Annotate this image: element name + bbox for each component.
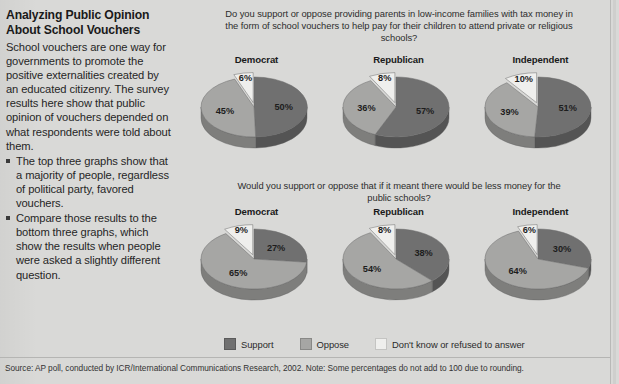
- pie-slice-label: 50%: [275, 102, 293, 112]
- pie-slice-label: 57%: [416, 106, 434, 116]
- pie-slice-label: 8%: [378, 73, 391, 83]
- list-item: The top three graphs show that a majorit…: [6, 154, 174, 210]
- legend-swatch-support: [224, 338, 236, 350]
- question-top: Do you support or oppose providing paren…: [218, 8, 580, 44]
- pie-slice-label: 45%: [216, 106, 234, 116]
- pie-svg: 30%64%6%: [474, 215, 606, 311]
- pie-slice-label: 30%: [553, 244, 571, 254]
- pie-graphic: 27%65%9%: [190, 215, 322, 315]
- pie-graphic: 50%45%6%: [190, 63, 322, 163]
- pie-slice-label: 10%: [515, 74, 533, 84]
- legend-label: Oppose: [317, 339, 350, 350]
- pie-chart-bottom-independent: Independent 30%64%6%: [470, 206, 611, 314]
- pie-svg: 27%65%9%: [190, 215, 322, 311]
- pie-slice-label: 36%: [357, 103, 375, 113]
- pie-slice-label: 9%: [235, 225, 248, 235]
- pie-chart-top-independent: Independent 51%39%10%: [470, 54, 611, 162]
- legend-item-support: Support: [224, 338, 274, 350]
- pie-chart-bottom-democrat: Democrat 27%65%9%: [186, 206, 327, 314]
- footer-divider: [0, 357, 610, 358]
- pie-svg: 51%39%10%: [474, 63, 606, 159]
- pie-slice-label: 8%: [378, 225, 391, 235]
- pie-graphic: 51%39%10%: [474, 63, 606, 163]
- pie-chart-bottom-republican: Republican 38%54%8%: [328, 206, 469, 314]
- pie-slice-label: 51%: [559, 103, 577, 113]
- question-bottom: Would you support or oppose that if it m…: [228, 180, 570, 204]
- list-item-text: The top three graphs show that a majorit…: [16, 155, 169, 209]
- bullet-list: The top three graphs show that a majorit…: [6, 154, 174, 282]
- pie-slice-label: 54%: [363, 264, 381, 274]
- list-item-text: Compare those results to the bottom thre…: [16, 212, 161, 280]
- page-edge-shadow: [613, 0, 616, 384]
- legend-item-dontknow: Don't know or refused to answer: [375, 338, 525, 350]
- pie-graphic: 38%54%8%: [332, 215, 464, 315]
- legend-swatch-oppose: [300, 338, 312, 350]
- pie-slice-label: 38%: [414, 248, 432, 258]
- legend-item-oppose: Oppose: [300, 338, 350, 350]
- pie-chart-top-republican: Republican 57%36%8%: [328, 54, 469, 162]
- pie-row-top: Democrat 50%45%6% Republican 57%36%8% In…: [186, 54, 610, 162]
- pie-graphic: 57%36%8%: [332, 63, 464, 163]
- bullet-square-icon: [6, 216, 10, 220]
- pie-graphic: 30%64%6%: [474, 215, 606, 315]
- pie-row-bottom: Democrat 27%65%9% Republican 38%54%8% In…: [186, 206, 610, 314]
- charts-panel: Do you support or oppose providing paren…: [186, 0, 610, 352]
- pie-slice-label: 27%: [267, 243, 285, 253]
- pie-slice-label: 64%: [509, 266, 527, 276]
- pie-slice-label: 6%: [239, 73, 252, 83]
- legend-label: Support: [241, 339, 274, 350]
- pie-chart-top-democrat: Democrat 50%45%6%: [186, 54, 327, 162]
- infographic-page: Analyzing Public Opinion About School Vo…: [0, 0, 619, 384]
- legend-swatch-dontknow: [375, 338, 387, 350]
- chart-legend: Support Oppose Don't know or refused to …: [186, 337, 610, 351]
- bullet-square-icon: [6, 159, 10, 163]
- pie-slice-label: 39%: [500, 107, 518, 117]
- page-title: Analyzing Public Opinion About School Vo…: [6, 8, 174, 37]
- pie-svg: 50%45%6%: [190, 63, 322, 159]
- pie-slice-label: 65%: [229, 268, 247, 278]
- list-item: Compare those results to the bottom thre…: [6, 211, 174, 281]
- intro-paragraph: School vouchers are one way for governme…: [6, 40, 174, 153]
- explainer-column: Analyzing Public Opinion About School Vo…: [6, 8, 174, 283]
- pie-svg: 38%54%8%: [332, 215, 464, 311]
- pie-svg: 57%36%8%: [332, 63, 464, 159]
- legend-label: Don't know or refused to answer: [392, 339, 525, 350]
- pie-slice-label: 6%: [523, 225, 536, 235]
- source-note: Source: AP poll, conducted by ICR/Intern…: [5, 363, 524, 373]
